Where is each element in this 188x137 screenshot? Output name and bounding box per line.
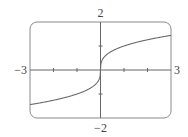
y-max-label: 2 bbox=[98, 6, 104, 20]
x-min-label: −3 bbox=[14, 63, 27, 77]
y-min-label: −2 bbox=[94, 121, 107, 135]
cube-root-chart: 2 −2 −3 3 bbox=[0, 0, 188, 137]
x-max-label: 3 bbox=[174, 63, 180, 77]
